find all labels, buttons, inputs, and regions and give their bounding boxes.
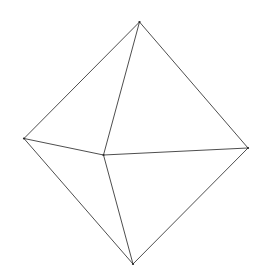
edge-top-right — [140, 22, 249, 148]
vertex-center — [102, 154, 104, 156]
edge-center-right — [104, 148, 249, 155]
vertex-bottom — [132, 263, 134, 265]
edge-left-bottom — [24, 139, 133, 265]
vertex-right — [247, 147, 249, 149]
edge-top-left — [24, 22, 140, 139]
octahedron-wireframe — [0, 0, 263, 277]
diagram-canvas — [0, 0, 263, 277]
edge-top-center — [104, 22, 140, 155]
vertex-left — [23, 137, 25, 139]
vertex-top — [138, 21, 140, 23]
edge-right-bottom — [133, 148, 248, 264]
